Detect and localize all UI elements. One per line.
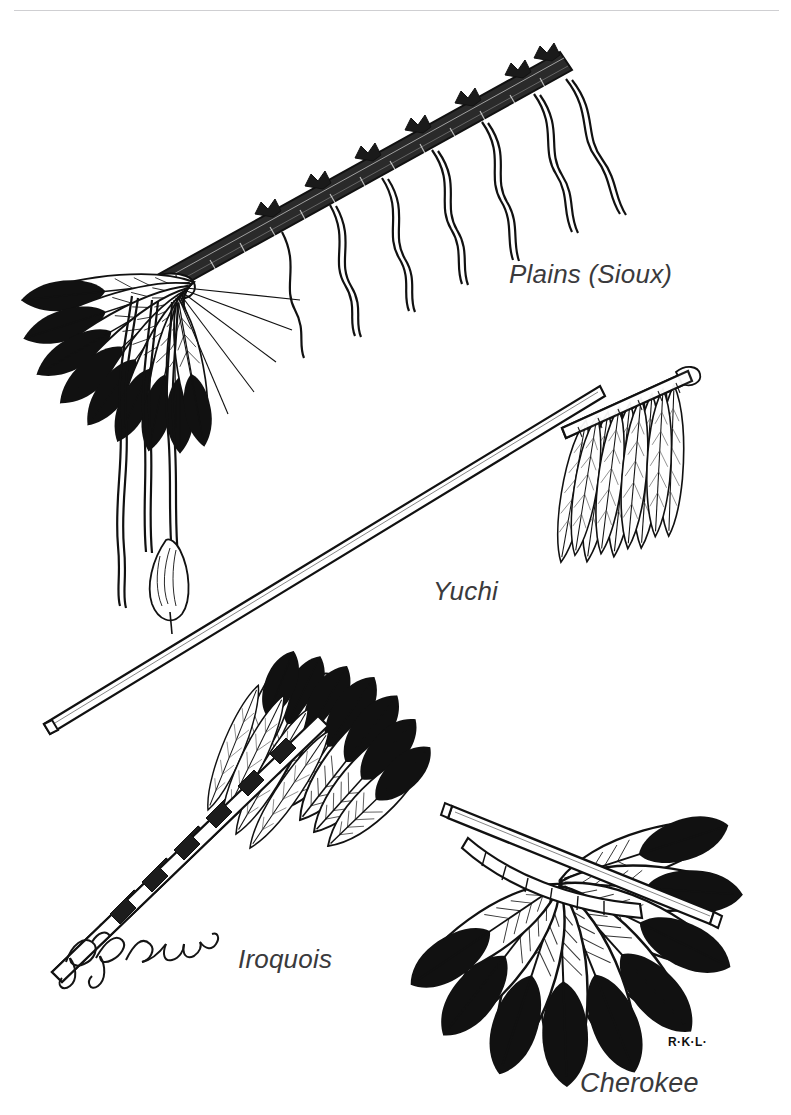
caption-plains-sioux: Plains (Sioux): [509, 259, 672, 290]
caption-yuchi: Yuchi: [433, 576, 498, 607]
plains-staff-tufts: [255, 43, 560, 217]
feather-fans-artwork: [0, 0, 791, 1115]
figure-plains-sioux: [19, 43, 626, 634]
plains-fringe-tuft: [150, 539, 189, 634]
artist-initials-signature: R·K·L·: [668, 1035, 707, 1049]
caption-cherokee: Cherokee: [580, 1068, 699, 1099]
caption-iroquois: Iroquois: [238, 944, 332, 975]
illustration-plate: Plains (Sioux) Yuchi Iroquois Cherokee R…: [0, 0, 791, 1115]
